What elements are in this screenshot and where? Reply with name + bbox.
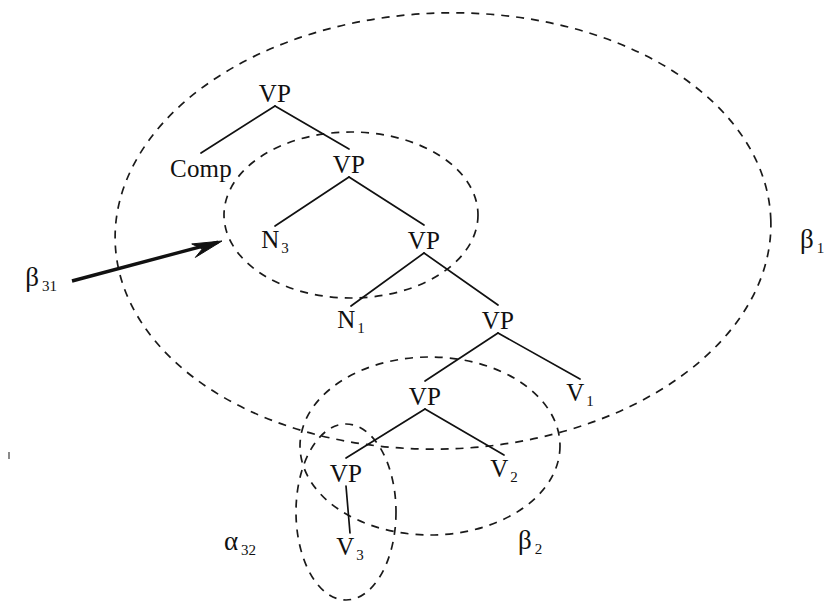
tree-node-comp: Comp [170,156,232,181]
beta2-label: β2 [518,527,542,557]
tree-node-vp-2-text: VP [333,151,365,178]
beta1-label: β1 [800,226,824,256]
beta31-label-symbol: β [25,262,39,292]
tree-node-vp-root: VP [259,81,291,106]
scan-artifact-speck [8,452,10,459]
edge-vp4-v1 [498,333,580,379]
edge-vp5-v2 [425,409,504,455]
tree-node-n1-text: N [337,306,355,333]
tree-node-vp-4: VP [482,308,514,333]
tree-node-v2: V2 [490,456,517,485]
tree-node-n1: N1 [337,307,364,336]
edge-vproot-comp [201,106,275,153]
edge-vp6-v3 [346,486,350,533]
edge-vp3-vp4 [424,253,498,305]
tree-node-vp-6: VP [330,461,362,486]
tree-node-n1-subscript: 1 [356,319,365,335]
tree-node-n3-text: N [261,226,279,253]
alpha-32-region [296,424,396,600]
tree-node-v2-subscript: 2 [509,468,518,484]
pointer-arrow-layer [72,241,222,281]
tree-node-vp-4-text: VP [482,307,514,334]
beta2-label-symbol: β [518,525,532,555]
beta-31-pointer-arrow-shaft [72,242,218,281]
alpha32-label-symbol: α [224,526,238,556]
tree-node-v1: V1 [566,380,593,409]
tree-node-vp-3-text: VP [408,227,440,254]
alpha32-label-subscript: 32 [238,542,256,558]
edge-vp2-n3 [275,177,349,226]
tree-node-vp-6-text: VP [330,460,362,487]
tree-node-vp-3: VP [408,228,440,253]
tree-node-v3: V3 [336,534,363,563]
beta-1-region [108,2,779,461]
tag-derivation-diagram: VPCompVPN3VPN1VPVPV1VPV2V3 β1β31β2α32 [0,0,840,613]
tree-node-vp-root-text: VP [259,80,291,107]
edge-vp5-vp6 [346,409,425,458]
tree-node-v3-subscript: 3 [355,546,364,562]
diagram-canvas [0,0,840,613]
edge-vp3-n1 [351,253,424,306]
edge-vproot-vp2 [275,106,349,149]
tree-node-n3: N3 [261,227,288,256]
tree-node-vp-2: VP [333,152,365,177]
tree-node-v1-text: V [566,379,584,406]
region-ellipses-layer [108,2,779,600]
beta31-label-subscript: 31 [39,278,57,294]
beta2-label-subscript: 2 [532,541,543,557]
tree-node-comp-text: Comp [170,155,232,182]
tree-node-vp-5: VP [409,384,441,409]
alpha32-label: α32 [224,528,256,558]
tree-node-vp-5-text: VP [409,383,441,410]
tree-node-n3-subscript: 3 [280,239,289,255]
tree-node-v3-text: V [336,533,354,560]
beta31-label: β31 [25,264,57,294]
edge-vp2-vp3 [349,177,424,225]
tree-node-v1-subscript: 1 [585,392,594,408]
tree-node-v2-text: V [490,455,508,482]
beta1-label-symbol: β [800,224,814,254]
beta1-label-subscript: 1 [814,240,825,256]
